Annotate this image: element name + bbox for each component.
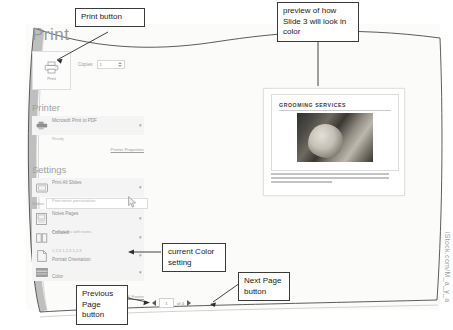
color-primary: Color [52, 274, 63, 279]
slides-label: Slides: [32, 201, 46, 206]
settings-options-block: Notes Pages Print slides with notes ▾ Co… [32, 209, 144, 281]
printer-selector[interactable]: Microsoft Print to PDF Ready ▾ [32, 116, 144, 135]
printer-block: Microsoft Print to PDF Ready ▾ [32, 116, 144, 135]
copies-label: Copies: [78, 62, 94, 67]
notes-line [271, 181, 332, 183]
stepper-down-icon[interactable] [118, 65, 122, 67]
print-action-row: Print Copies: 1 [32, 51, 148, 93]
preview-title-rule [279, 110, 391, 111]
callout-next-page: Next Page button [238, 272, 290, 301]
callout-preview: preview of how Slide 3 will look in colo… [277, 2, 359, 42]
print-backstage-pane: Print Print Copies: 1 [30, 26, 148, 281]
orientation-primary: Portrait Orientation [52, 257, 91, 262]
orientation-text: Portrait Orientation [52, 247, 136, 265]
collation-selector[interactable]: Collated 1,2,3 1,2,3 1,2,3 ▾ [32, 228, 144, 247]
notes-line [271, 173, 389, 175]
color-selector[interactable]: Color ▾ [32, 264, 144, 281]
print-layout-primary: Notes Pages [52, 211, 78, 216]
slide-icon [35, 181, 48, 194]
printer-device-icon [35, 119, 48, 132]
chevron-down-icon[interactable]: ▾ [136, 123, 144, 128]
notes-line [271, 177, 389, 179]
istock-watermark: iStock.com/M_a_y_a [444, 232, 451, 302]
previous-page-button[interactable] [152, 300, 156, 306]
current-page-input[interactable]: 1 [159, 298, 174, 308]
print-range-selector[interactable]: Print All Slides Print entire presentati… [32, 178, 144, 197]
next-page-button[interactable] [187, 300, 191, 306]
printer-properties-link[interactable]: Printer Properties [111, 147, 144, 152]
chevron-down-icon[interactable]: ▾ [136, 185, 144, 190]
print-button-label: Print [47, 76, 56, 81]
copies-stepper-arrows[interactable] [118, 62, 122, 67]
copies-stepper[interactable]: 1 [97, 60, 125, 69]
preview-slide-title: GROOMING SERVICES [279, 102, 346, 108]
callout-color-setting: current Color setting [162, 243, 226, 272]
copies-value: 1 [100, 62, 102, 67]
chevron-down-icon[interactable]: ▾ [136, 270, 144, 275]
print-range-primary: Print All Slides [52, 180, 81, 185]
chevron-down-icon[interactable]: ▾ [136, 216, 144, 221]
page-count-label: of 4 [177, 301, 184, 306]
chevron-down-icon[interactable]: ▾ [136, 235, 144, 240]
printer-text: Microsoft Print to PDF Ready [52, 108, 136, 144]
print-button[interactable]: Print [32, 51, 71, 90]
orientation-selector[interactable]: Portrait Orientation ▾ [32, 247, 144, 264]
printer-name: Microsoft Print to PDF [52, 118, 97, 123]
copies-control: Copies: 1 [78, 60, 125, 69]
printer-icon [44, 61, 59, 74]
preview-slide: GROOMING SERVICES [271, 94, 399, 171]
color-swatch-icon [35, 266, 48, 279]
collate-icon [35, 231, 48, 244]
collation-primary: Collated [52, 230, 69, 235]
chevron-down-icon[interactable]: ▾ [136, 253, 144, 258]
color-text: Color [52, 264, 136, 282]
printer-status: Ready [52, 136, 64, 141]
screenshot-root: Print Print Copies: 1 [0, 0, 453, 330]
stepper-up-icon[interactable] [118, 62, 122, 64]
mouse-cursor [128, 196, 137, 208]
page-title: Print [32, 26, 148, 43]
print-range-block: Print All Slides Print entire presentati… [32, 178, 144, 197]
callout-previous-page: Previous Page button [76, 285, 128, 325]
dog-grooming-photo [297, 113, 373, 162]
print-preview-panel: GROOMING SERVICES [263, 88, 405, 196]
portrait-page-icon [35, 249, 48, 262]
callout-print-button: Print button [75, 8, 145, 27]
notes-page-icon [35, 212, 48, 225]
preview-notes-text [271, 173, 389, 185]
page-navigator: 1 of 4 [152, 298, 191, 308]
